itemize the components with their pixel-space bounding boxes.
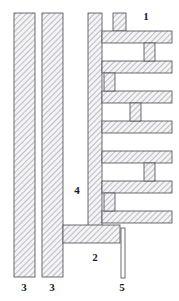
fin [102,121,172,133]
vertical-spine [88,13,102,239]
fin-connector [104,193,115,211]
fin-connector [104,73,115,91]
fin [102,211,172,223]
drawing-canvas: 123345 [0,0,179,301]
fin [102,181,172,193]
technical-drawing-figure: 123345 [0,0,179,301]
fin [102,61,172,73]
pin [121,228,125,278]
fin-connector [130,103,141,121]
fin-connector [144,163,155,181]
top-tab [113,13,126,31]
reference-label-2: 2 [92,251,98,263]
reference-label-1: 1 [143,10,149,22]
left-plate-outer [14,13,35,277]
fin [102,91,172,103]
reference-label-5: 5 [119,281,125,293]
fin [102,151,172,163]
reference-label-4: 4 [74,184,80,196]
reference-label-3: 3 [21,281,27,293]
base-plate [63,225,120,243]
reference-label-3: 3 [49,281,55,293]
left-plate-inner [42,13,63,277]
fin-connector [144,43,155,61]
fin [102,31,172,43]
